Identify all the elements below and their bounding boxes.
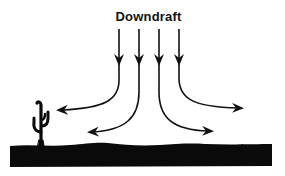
desert-ground	[10, 143, 272, 167]
downdraft-arrow-1	[62, 29, 119, 110]
downdraft-arrow-3	[159, 29, 208, 131]
cactus-icon	[34, 102, 48, 146]
downdraft-arrow-2	[93, 29, 139, 132]
downdraft-arrow-4	[179, 29, 238, 108]
diagram-canvas	[0, 0, 285, 176]
downdraft-diagram: Downdraft	[0, 0, 285, 176]
diagram-title: Downdraft	[0, 9, 285, 24]
